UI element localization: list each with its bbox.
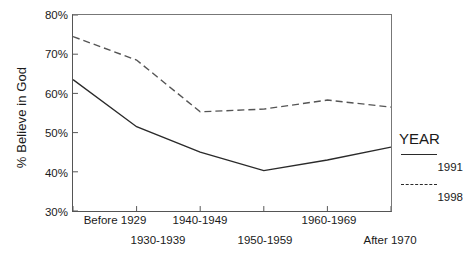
y-axis-tick-label: 30% <box>28 206 68 218</box>
y-axis-tick-labels: 80% 70% 60% 50% 40% 30% <box>28 0 68 265</box>
plot-area <box>72 14 392 212</box>
y-axis-title: % Believe in God <box>14 23 29 213</box>
legend-item-label: 1991 <box>437 161 463 173</box>
legend-item-label: 1998 <box>437 191 463 203</box>
x-axis-tick-label: 1940-1949 <box>173 214 228 226</box>
x-axis-tick-label: 1960-1969 <box>302 214 357 226</box>
y-axis-tick-label: 50% <box>28 127 68 139</box>
x-axis-tick-label: After 1970 <box>363 234 416 246</box>
legend-line-swatch-solid <box>401 154 437 155</box>
y-axis-tick-label: 80% <box>28 9 68 21</box>
legend: YEAR 1991 1998 <box>399 130 465 207</box>
series-line-1998 <box>73 37 391 112</box>
series-line-1991 <box>73 80 391 171</box>
legend-item-1998: 1998 <box>399 177 465 207</box>
line-chart: % Believe in God 80% 70% 60% 50% 40% 30%… <box>0 0 465 265</box>
legend-item-1991: 1991 <box>399 147 465 177</box>
y-axis-tick-label: 40% <box>28 167 68 179</box>
x-axis-tick-label: 1930-1939 <box>131 234 186 246</box>
legend-line-swatch-dashed <box>401 184 437 185</box>
legend-title: YEAR <box>399 130 465 147</box>
y-axis-tick-label: 70% <box>28 48 68 60</box>
plot-svg <box>73 15 391 211</box>
x-axis-tick-label: 1950-1959 <box>238 234 293 246</box>
x-axis-tick-label: Before 1929 <box>84 214 147 226</box>
y-axis-tick-label: 60% <box>28 88 68 100</box>
